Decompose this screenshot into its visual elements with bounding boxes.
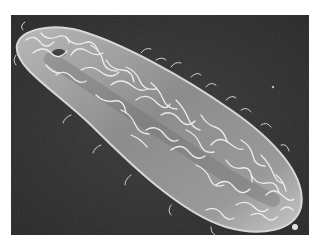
ciliate-cell-illustration — [11, 15, 309, 235]
debris-speck — [292, 224, 298, 230]
micrograph-image — [11, 15, 309, 235]
